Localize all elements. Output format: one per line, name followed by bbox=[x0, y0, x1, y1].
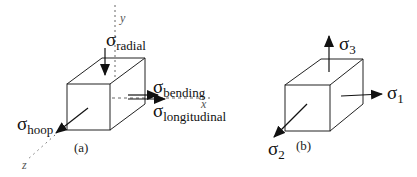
caption-a: (a) bbox=[74, 140, 88, 155]
panel-b: σ3 σ1 σ2 (b) bbox=[268, 33, 404, 162]
sigma1-arrow bbox=[341, 94, 382, 96]
stress-diagram: σradial σbending σlongitudinal σhoop y x… bbox=[0, 0, 417, 177]
longitudinal-label: σlongitudinal bbox=[153, 100, 226, 124]
caption-b: (b) bbox=[296, 138, 311, 153]
cube-a bbox=[67, 58, 145, 130]
z-axis-label: z bbox=[21, 158, 27, 172]
sigma2-arrow bbox=[274, 104, 307, 137]
y-axis-label: y bbox=[119, 11, 126, 25]
z-axis bbox=[27, 135, 55, 160]
hoop-arrow bbox=[56, 108, 88, 133]
sigma1-label: σ1 bbox=[387, 82, 404, 106]
sigma3-label: σ3 bbox=[339, 33, 356, 57]
sigma2-label: σ2 bbox=[268, 138, 285, 162]
x-axis-label: x bbox=[200, 97, 207, 111]
hoop-label: σhoop bbox=[17, 113, 53, 137]
radial-label: σradial bbox=[106, 29, 146, 53]
panel-a: σradial σbending σlongitudinal σhoop y x… bbox=[17, 5, 226, 172]
bending-label: σbending bbox=[153, 76, 206, 100]
